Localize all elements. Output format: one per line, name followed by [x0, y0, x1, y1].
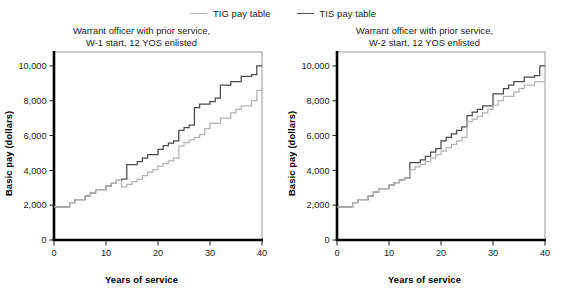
svg-text:20: 20: [153, 248, 163, 258]
y-axis-label-right: Basic pay (dollars): [285, 88, 297, 218]
svg-text:4,000: 4,000: [24, 166, 47, 176]
chart-panel-right: Warrant officer with prior service, W-2 …: [283, 22, 566, 296]
plot-area-left: 02,0004,0006,0008,00010,000010203040: [0, 22, 283, 296]
figure-root: TIG pay table TIS pay table Warrant offi…: [0, 0, 566, 296]
svg-text:40: 40: [257, 248, 267, 258]
svg-text:8,000: 8,000: [307, 96, 330, 106]
svg-text:0: 0: [334, 248, 339, 258]
svg-text:0: 0: [51, 248, 56, 258]
svg-text:30: 30: [205, 248, 215, 258]
series-line-tis: [337, 66, 545, 207]
plot-svg-right: 02,0004,0006,0008,00010,000010203040: [283, 22, 566, 296]
legend-label-tis: TIS pay table: [320, 8, 377, 19]
legend-item-tig: TIG pay table: [190, 8, 271, 19]
svg-text:20: 20: [436, 248, 446, 258]
series-line-tig: [54, 90, 262, 207]
legend-item-tis: TIS pay table: [297, 8, 377, 19]
x-axis-label-left: Years of service: [0, 274, 283, 285]
legend-swatch-tis: [297, 13, 314, 14]
svg-text:30: 30: [488, 248, 498, 258]
svg-text:6,000: 6,000: [24, 131, 47, 141]
plot-area-right: 02,0004,0006,0008,00010,000010203040: [283, 22, 566, 296]
chart-legend: TIG pay table TIS pay table: [0, 4, 566, 22]
y-axis-label-left: Basic pay (dollars): [2, 88, 14, 218]
legend-label-tig: TIG pay table: [213, 8, 271, 19]
svg-text:40: 40: [540, 248, 550, 258]
x-axis-label-right: Years of service: [283, 274, 566, 285]
svg-text:10: 10: [101, 248, 111, 258]
svg-text:2,000: 2,000: [307, 200, 330, 210]
svg-text:8,000: 8,000: [24, 96, 47, 106]
svg-text:10: 10: [384, 248, 394, 258]
svg-text:0: 0: [324, 235, 329, 245]
legend-swatch-tig: [190, 13, 207, 14]
plot-svg-left: 02,0004,0006,0008,00010,000010203040: [0, 22, 283, 296]
svg-text:0: 0: [41, 235, 46, 245]
svg-text:6,000: 6,000: [307, 131, 330, 141]
svg-text:2,000: 2,000: [24, 200, 47, 210]
svg-text:4,000: 4,000: [307, 166, 330, 176]
chart-panel-left: Warrant officer with prior service, W-1 …: [0, 22, 283, 296]
svg-text:10,000: 10,000: [18, 61, 46, 71]
svg-text:10,000: 10,000: [301, 61, 329, 71]
series-line-tis: [54, 66, 262, 207]
